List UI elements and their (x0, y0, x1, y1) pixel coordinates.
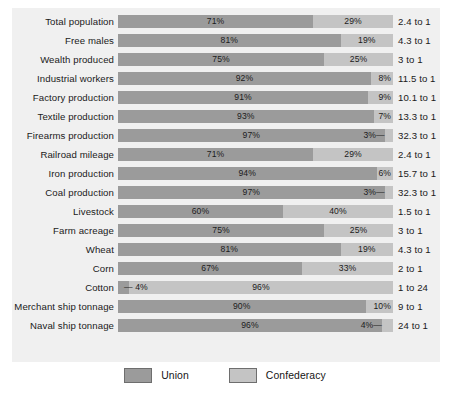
confederacy-percent-label: 3%— (343, 129, 386, 142)
row-label: Merchant ship tonnage (0, 301, 118, 313)
ratio-label: 9 to 1 (393, 300, 423, 313)
confederacy-percent-label: 10% (336, 300, 394, 313)
chart-row: Corn67%33%2 to 1 (0, 259, 450, 278)
ratio-label: 3 to 1 (393, 224, 423, 237)
stacked-bar: 91%9% (118, 91, 393, 104)
ratio-label: 32.3 to 1 (393, 129, 436, 142)
ratio-label: 32.3 to 1 (393, 186, 436, 199)
chart-row: Livestock60%40%1.5 to 1 (0, 202, 450, 221)
confederacy-percent-label: 6% (347, 167, 394, 180)
chart-row: Factory production91%9%10.1 to 1 (0, 88, 450, 107)
union-percent-label: 71% (118, 15, 313, 28)
chart-row: Free males81%19%4.3 to 1 (0, 31, 450, 50)
union-percent-label: 91% (118, 91, 368, 104)
confederacy-percent-label: 19% (341, 34, 393, 47)
chart-row: Industrial workers92%8%11.5 to 1 (0, 69, 450, 88)
confederacy-percent-label: 25% (324, 224, 393, 237)
union-percent-label: 67% (118, 262, 302, 275)
stacked-bar: 75%25% (118, 224, 393, 237)
ratio-label: 3 to 1 (393, 53, 423, 66)
legend-item-union: Union (124, 368, 189, 383)
stacked-bar: 75%25% (118, 53, 393, 66)
row-label: Total population (0, 16, 118, 28)
row-label: Farm acreage (0, 225, 118, 237)
chart-row: Iron production94%6%15.7 to 1 (0, 164, 450, 183)
confederacy-percent-label: 8% (341, 72, 393, 85)
row-label: Railroad mileage (0, 149, 118, 161)
confederacy-percent-label: 40% (283, 205, 393, 218)
legend-label: Union (161, 369, 189, 382)
chart-row: Railroad mileage71%29%2.4 to 1 (0, 145, 450, 164)
confederacy-percent-label: 29% (313, 15, 393, 28)
stacked-bar: 97%3%— (118, 129, 393, 142)
chart-row: Total population71%29%2.4 to 1 (0, 12, 450, 31)
confederacy-percent-label: 29% (313, 148, 393, 161)
ratio-label: 4.3 to 1 (393, 34, 431, 47)
row-label: Wheat (0, 244, 118, 256)
row-label: Textile production (0, 111, 118, 123)
chart-row: Wheat81%19%4.3 to 1 (0, 240, 450, 259)
union-percent-label: 92% (118, 72, 371, 85)
stacked-bar: 81%19% (118, 243, 393, 256)
ratio-label: 1 to 24 (393, 281, 428, 294)
row-label: Industrial workers (0, 73, 118, 85)
ratio-label: 1.5 to 1 (393, 205, 431, 218)
union-percent-label: 71% (118, 148, 313, 161)
stacked-bar: 90%10% (118, 300, 393, 313)
legend-swatch-icon (229, 368, 257, 383)
ratio-label: 15.7 to 1 (393, 167, 436, 180)
stacked-bar: 71%29% (118, 148, 393, 161)
confederacy-percent-label: 19% (341, 243, 393, 256)
bar-segment-confederacy (385, 186, 393, 199)
stacked-bar: 71%29% (118, 15, 393, 28)
stacked-bar: 94%6% (118, 167, 393, 180)
legend-label: Confederacy (266, 369, 326, 382)
union-percent-label: 75% (118, 224, 324, 237)
stacked-bar: — 4%96% (118, 281, 393, 294)
ratio-label: 13.3 to 1 (393, 110, 436, 123)
ratio-label: 24 to 1 (393, 319, 428, 332)
union-percent-label: 75% (118, 53, 324, 66)
chart-row: Farm acreage75%25%3 to 1 (0, 221, 450, 240)
chart-rows: Total population71%29%2.4 to 1Free males… (0, 0, 450, 335)
confederacy-percent-label: 96% (129, 281, 393, 294)
row-label: Cotton (0, 282, 118, 294)
confederacy-percent-label: 7% (344, 110, 393, 123)
chart-row: Firearms production97%3%—32.3 to 1 (0, 126, 450, 145)
bar-segment-confederacy (382, 319, 393, 332)
union-percent-label: 93% (118, 110, 374, 123)
union-percent-label: 90% (118, 300, 366, 313)
union-percent-label: 81% (118, 243, 341, 256)
chart-row: Merchant ship tonnage90%10%9 to 1 (0, 297, 450, 316)
stacked-bar: 97%3%— (118, 186, 393, 199)
row-label: Naval ship tonnage (0, 320, 118, 332)
confederacy-percent-label: 4%— (340, 319, 383, 332)
stacked-bar: 67%33% (118, 262, 393, 275)
stacked-bar: 92%8% (118, 72, 393, 85)
bar-segment-confederacy (385, 129, 393, 142)
row-label: Firearms production (0, 130, 118, 142)
row-label: Factory production (0, 92, 118, 104)
ratio-label: 11.5 to 1 (393, 72, 436, 85)
ratio-label: 2.4 to 1 (393, 15, 431, 28)
confederacy-percent-label: 33% (302, 262, 393, 275)
legend-swatch-icon (124, 368, 152, 383)
stacked-bar: 96%4%— (118, 319, 393, 332)
row-label: Corn (0, 263, 118, 275)
legend-item-conf: Confederacy (229, 368, 326, 383)
ratio-label: 10.1 to 1 (393, 91, 436, 104)
confederacy-percent-label: 3%— (343, 186, 386, 199)
union-percent-label: 94% (118, 167, 377, 180)
chart-container: Total population71%29%2.4 to 1Free males… (0, 0, 450, 407)
row-label: Livestock (0, 206, 118, 218)
chart-row: Naval ship tonnage96%4%—24 to 1 (0, 316, 450, 335)
union-percent-label: 81% (118, 34, 341, 47)
chart-row: Cotton— 4%96%1 to 24 (0, 278, 450, 297)
confederacy-percent-label: 25% (324, 53, 393, 66)
chart-row: Coal production97%3%—32.3 to 1 (0, 183, 450, 202)
row-label: Iron production (0, 168, 118, 180)
stacked-bar: 93%7% (118, 110, 393, 123)
ratio-label: 4.3 to 1 (393, 243, 431, 256)
stacked-bar: 60%40% (118, 205, 393, 218)
chart-row: Wealth produced75%25%3 to 1 (0, 50, 450, 69)
